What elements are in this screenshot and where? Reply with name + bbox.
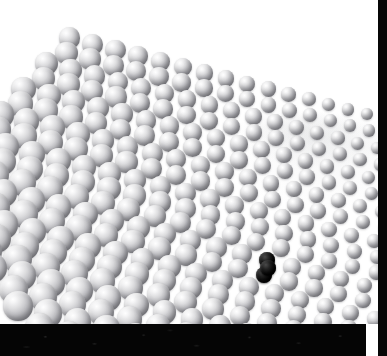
sphere: [353, 153, 366, 166]
sphere: [322, 175, 337, 190]
sphere: [195, 79, 213, 97]
sphere: [320, 159, 335, 174]
sphere: [323, 238, 339, 254]
sphere: [117, 306, 142, 324]
sphere: [281, 87, 296, 102]
sphere: [254, 157, 271, 174]
defect-particle: [260, 260, 276, 276]
sphere: [282, 103, 297, 118]
sphere: [303, 108, 317, 122]
sphere: [347, 244, 362, 259]
sphere: [367, 311, 378, 324]
sphere: [177, 106, 196, 125]
sphere: [310, 126, 324, 140]
sphere: [331, 131, 345, 145]
sphere: [245, 108, 261, 124]
sphere: [365, 187, 378, 200]
sphere: [353, 199, 367, 213]
sphere: [344, 119, 357, 132]
sphere: [253, 141, 270, 158]
sphere: [321, 253, 337, 269]
sphere: [369, 265, 378, 280]
sphere: [355, 293, 371, 309]
sphere: [223, 118, 240, 135]
sphere: [287, 197, 303, 213]
sphere: [298, 153, 313, 168]
sphere: [324, 114, 338, 128]
right-dark-strip: [378, 0, 387, 356]
sphere: [370, 250, 378, 264]
sphere: [310, 203, 326, 219]
sphere: [277, 163, 293, 179]
sphere: [286, 181, 302, 197]
sphere: [361, 108, 373, 120]
sphere: [230, 151, 248, 169]
sphere: [331, 193, 346, 208]
sphere: [297, 246, 314, 263]
sphere: [223, 102, 240, 119]
sphere: [239, 91, 255, 107]
sphere: [374, 158, 378, 171]
sphere: [93, 315, 119, 324]
sphere: [362, 171, 375, 184]
sphere: [217, 85, 234, 102]
sphere: [330, 286, 346, 302]
sphere: [341, 165, 355, 179]
sphere: [268, 130, 284, 146]
sphere: [218, 70, 235, 87]
sphere: [299, 169, 314, 184]
bottom-right-white-gap: [366, 324, 378, 356]
band-grain-texture: [0, 324, 378, 356]
sphere: [261, 97, 277, 113]
sphere: [239, 76, 255, 92]
sphere: [309, 187, 324, 202]
sphere: [363, 124, 375, 136]
sphere: [276, 147, 292, 163]
sphere: [333, 147, 347, 161]
sphere: [207, 145, 225, 163]
sphere: [305, 279, 322, 296]
sphere: [322, 98, 335, 111]
sphere: [357, 278, 372, 293]
sphere: [298, 215, 314, 231]
imaging-field: [0, 0, 378, 324]
sphere: [200, 112, 218, 130]
sphere: [267, 114, 283, 130]
sphere: [342, 305, 358, 321]
sphere: [367, 234, 378, 248]
sphere: [172, 73, 190, 91]
sphere: [290, 136, 305, 151]
sphere: [302, 92, 316, 106]
sphere: [333, 271, 349, 287]
sphere: [333, 209, 348, 224]
sphere: [289, 120, 304, 135]
sphere: [274, 209, 291, 226]
sphere: [314, 313, 332, 324]
bottom-dark-band: [0, 324, 378, 356]
micrograph-frame: [0, 0, 387, 356]
sphere: [344, 228, 359, 243]
sphere: [342, 103, 355, 116]
sphere: [312, 142, 326, 156]
sphere: [209, 315, 231, 324]
sphere: [246, 124, 263, 141]
sphere: [272, 239, 290, 257]
sphere: [263, 175, 280, 192]
sphere: [183, 138, 202, 157]
sphere: [351, 137, 364, 150]
sphere: [343, 181, 357, 195]
sphere: [261, 81, 276, 96]
sphere: [230, 306, 251, 324]
sphere: [321, 222, 337, 238]
sphere: [345, 259, 360, 274]
sphere: [375, 205, 378, 218]
sphere: [356, 215, 370, 229]
sphere: [371, 142, 378, 154]
